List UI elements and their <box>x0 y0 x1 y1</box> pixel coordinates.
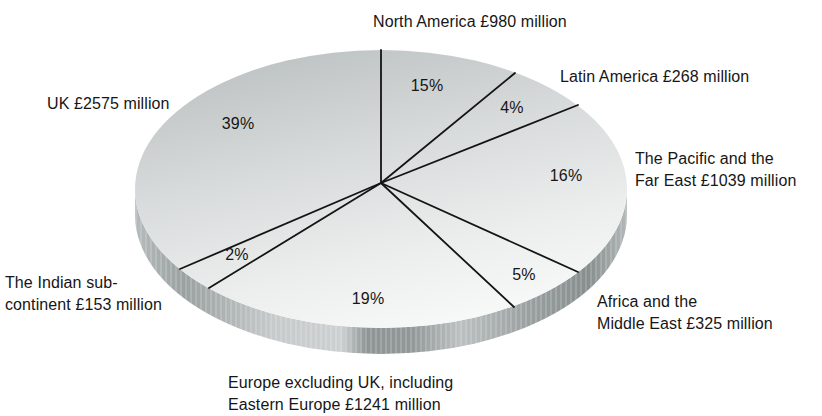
slice-label-north-america: North America £980 million <box>373 11 567 33</box>
slice-label-europe: Europe excluding UK, including Eastern E… <box>228 372 453 416</box>
slice-label-latin-america: Latin America £268 million <box>560 66 749 88</box>
slice-label-uk: UK £2575 million <box>47 93 170 115</box>
slice-label-indian-subcontinent: The Indian sub- continent £153 million <box>5 272 162 316</box>
slice-label-pacific-far-east: The Pacific and the Far East £1039 milli… <box>635 148 796 192</box>
slice-label-africa-middle-east: Africa and the Middle East £325 million <box>597 291 773 335</box>
slice-pct-latin-america: 4% <box>500 99 524 117</box>
slice-pct-north-america: 15% <box>411 77 444 95</box>
slice-pct-pacific-far-east: 16% <box>550 167 583 185</box>
slice-pct-africa-middle-east: 5% <box>512 266 536 284</box>
slice-pct-europe: 19% <box>352 290 385 308</box>
pie-chart <box>0 0 822 416</box>
slice-pct-uk: 39% <box>222 115 255 133</box>
slice-pct-indian-subcontinent: 2% <box>225 246 249 264</box>
pie-chart-figure: 15% 4% 16% 5% 19% 2% 39% North America £… <box>0 0 822 416</box>
